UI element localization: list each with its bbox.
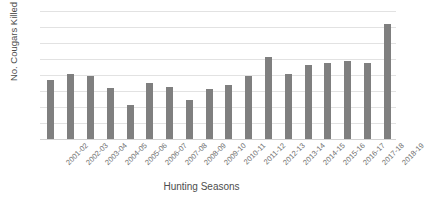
x-axis-tick-labels: 2001-022002-032003-042004-052005-062006-… <box>40 141 396 179</box>
chart-title <box>0 0 403 2</box>
bar <box>166 87 173 139</box>
bar <box>206 89 213 139</box>
bar <box>305 65 312 139</box>
plot-area: 050100150200250300350400 <box>40 11 396 139</box>
x-axis-title: Hunting Seasons <box>0 181 403 192</box>
gridline <box>40 139 396 140</box>
bar <box>245 76 252 139</box>
bar <box>384 24 391 139</box>
bar <box>47 80 54 139</box>
bar <box>285 74 292 139</box>
bar <box>225 85 232 139</box>
bar <box>186 100 193 139</box>
bar-series <box>40 11 396 139</box>
bar <box>344 61 351 139</box>
bar <box>127 105 134 139</box>
bar <box>146 83 153 139</box>
bar <box>67 74 74 139</box>
y-axis-title: No. Cougars Killed <box>8 0 19 97</box>
bar <box>87 76 94 139</box>
bar <box>107 88 114 139</box>
bar <box>265 57 272 139</box>
bar <box>324 63 331 139</box>
bar <box>364 63 371 139</box>
